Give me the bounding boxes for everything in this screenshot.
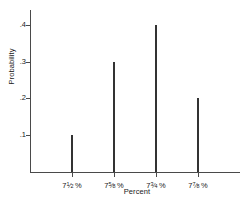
y-tick-mark	[26, 135, 30, 136]
x-axis-title: Percent	[30, 187, 244, 196]
probability-distribution-chart: Probability .1.2.3.4 71⁄2 %75⁄8 %73⁄4 %7…	[0, 0, 244, 201]
x-tick-mark	[156, 172, 157, 177]
x-tick-mark	[114, 172, 115, 177]
y-tick-mark	[26, 25, 30, 26]
y-tick-label: .4	[10, 20, 26, 29]
data-spike	[71, 135, 73, 172]
y-axis-line	[30, 10, 31, 173]
y-tick-label: .1	[10, 130, 26, 139]
y-axis-title: Probability	[7, 32, 16, 102]
data-spike	[155, 25, 157, 172]
y-tick-mark	[26, 98, 30, 99]
y-tick-mark	[26, 62, 30, 63]
data-spike	[197, 98, 199, 172]
x-tick-mark	[198, 172, 199, 177]
x-tick-mark	[72, 172, 73, 177]
y-tick-label: .2	[10, 93, 26, 102]
x-axis-line	[30, 172, 240, 173]
y-tick-label: .3	[10, 57, 26, 66]
plot-area: .1.2.3.4 71⁄2 %75⁄8 %73⁄4 %77⁄8 %	[30, 10, 240, 173]
data-spike	[113, 62, 115, 172]
